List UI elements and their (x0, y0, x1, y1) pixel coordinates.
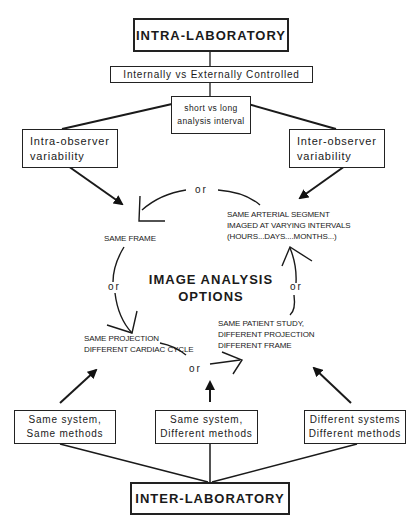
option-same-patient-line2: DIFFERENT PROJECTION (218, 329, 315, 340)
bottom-box-1-line1: Same system, (29, 413, 102, 427)
option-same-patient: SAME PATIENT STUDY, DIFFERENT PROJECTION… (218, 318, 315, 351)
inter-observer-line2: variability (297, 149, 352, 164)
inter-laboratory-title: INTER-LABORATORY (135, 491, 284, 506)
option-same-projection: SAME PROJECTION DIFFERENT CARDIAC CYCLE (84, 333, 194, 355)
same-system-different-methods-box: Same system, Different methods (155, 410, 258, 444)
or-left: or (108, 281, 121, 292)
bottom-box-3-line2: Different methods (309, 427, 401, 441)
or-bottom: or (189, 363, 202, 374)
intra-laboratory-title: INTRA-LABORATORY (136, 28, 286, 43)
or-top: or (195, 184, 208, 195)
bottom-box-2-line2: Different methods (160, 427, 252, 441)
option-same-patient-line3: DIFFERENT FRAME (218, 340, 315, 351)
inter-observer-box: Inter-observer variability (289, 129, 385, 168)
option-same-projection-line1: SAME PROJECTION (84, 333, 194, 344)
intra-observer-line2: variability (30, 149, 85, 164)
intra-laboratory-box: INTRA-LABORATORY (133, 18, 289, 52)
center-title: IMAGE ANALYSIS OPTIONS (146, 271, 276, 305)
option-same-segment: SAME ARTERIAL SEGMENT IMAGED AT VARYING … (227, 209, 351, 242)
center-title-line1: IMAGE ANALYSIS (146, 271, 276, 288)
interval-line1: short vs long (184, 102, 237, 115)
interval-line2: analysis interval (177, 115, 244, 128)
bottom-box-3-line1: Different systems (310, 413, 401, 427)
option-same-frame: SAME FRAME (104, 233, 156, 244)
same-system-same-methods-box: Same system, Same methods (14, 410, 116, 444)
center-title-line2: OPTIONS (146, 288, 276, 305)
interval-box: short vs long analysis interval (171, 96, 251, 134)
option-same-segment-line2: IMAGED AT VARYING INTERVALS (227, 220, 351, 231)
bottom-box-2-line1: Same system, (170, 413, 243, 427)
control-label: Internally vs Externally Controlled (123, 67, 299, 82)
or-right: or (290, 281, 303, 292)
control-box: Internally vs Externally Controlled (110, 66, 313, 83)
different-systems-different-methods-box: Different systems Different methods (304, 410, 406, 444)
intra-observer-line1: Intra-observer (30, 134, 110, 149)
bottom-box-1-line2: Same methods (27, 427, 104, 441)
intra-observer-box: Intra-observer variability (22, 129, 118, 168)
inter-observer-line1: Inter-observer (297, 134, 377, 149)
option-same-projection-line2: DIFFERENT CARDIAC CYCLE (84, 344, 194, 355)
inter-laboratory-box: INTER-LABORATORY (130, 482, 290, 515)
option-same-segment-line3: (HOURS...DAYS....MONTHS...) (227, 231, 351, 242)
option-same-segment-line1: SAME ARTERIAL SEGMENT (227, 209, 351, 220)
option-same-patient-line1: SAME PATIENT STUDY, (218, 318, 315, 329)
